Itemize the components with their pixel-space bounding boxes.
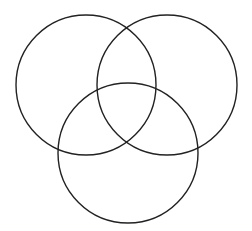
venn-diagram bbox=[0, 0, 252, 231]
